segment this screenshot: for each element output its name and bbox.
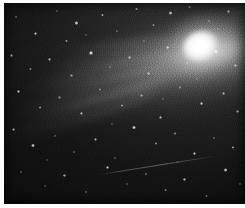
photograph-frame: Comet with bright coma and broad dust ta… [0,0,245,208]
comet-photograph [4,3,245,204]
sky-vignette [4,3,245,204]
